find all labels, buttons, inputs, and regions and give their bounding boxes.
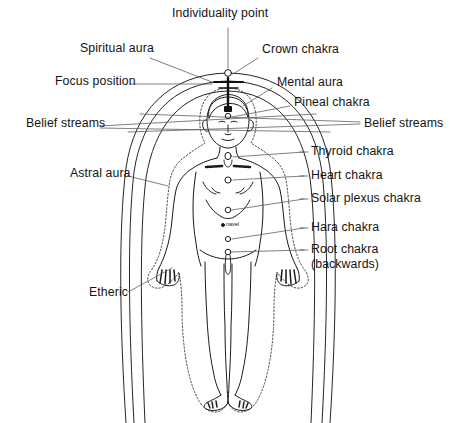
leader-root-chakra <box>232 250 304 252</box>
leader-astral-aura <box>128 176 168 186</box>
root-chakra-marker <box>225 249 231 255</box>
figure-drawing <box>0 0 457 423</box>
leader-mental-aura <box>243 88 272 106</box>
label-root-chakra: Root chakra <box>311 242 378 257</box>
pineal-chakra-marker <box>225 113 230 118</box>
label-individuality-point: Individuality point <box>172 6 268 21</box>
label-crown-chakra: Crown chakra <box>262 42 339 57</box>
root-chakra-shaft <box>225 255 231 274</box>
leader-belief-streams-left-b <box>100 128 330 132</box>
label-astral-aura: Astral aura <box>70 166 131 181</box>
label-thyroid-chakra: Thyroid chakra <box>311 144 394 159</box>
label-etheric: Etheric <box>89 285 128 300</box>
label-solar-plexus-chakra: Solar plexus chakra <box>311 191 421 206</box>
label-spiritual-aura: Spiritual aura <box>80 41 154 56</box>
leader-belief-streams-right-a <box>140 114 360 122</box>
leader-belief-streams-left-a <box>100 114 316 126</box>
leader-hara-chakra <box>232 228 304 239</box>
leader-pineal-chakra <box>232 106 290 117</box>
label-belief-streams-left: Belief streams <box>26 116 105 131</box>
focus-position-cap <box>224 106 232 112</box>
leader-thyroid-chakra <box>233 152 304 157</box>
thyroid-chakra-detail <box>224 160 232 167</box>
label-heart-chakra: Heart chakra <box>311 168 383 183</box>
heart-chakra-marker <box>225 177 231 183</box>
label-navel: navel <box>226 221 239 227</box>
solar-plexus-chakra-marker <box>225 207 231 213</box>
leader-ticks <box>300 152 308 250</box>
hara-chakra-marker <box>225 236 230 241</box>
navel-marker <box>222 224 225 227</box>
leader-spiritual-aura <box>150 58 212 82</box>
label-pineal-chakra: Pineal chakra <box>294 95 370 110</box>
label-belief-streams-right: Belief streams <box>364 116 443 131</box>
leader-crown-chakra <box>233 58 258 74</box>
label-mental-aura: Mental aura <box>277 75 343 90</box>
label-root-chakra-backwards: (backwards) <box>311 257 379 272</box>
crown-chakra-marker <box>225 70 232 77</box>
thyroid-chakra-marker <box>225 152 231 159</box>
aura-chakra-diagram: Individuality point Spiritual aura Crown… <box>0 0 457 423</box>
label-hara-chakra: Hara chakra <box>311 220 379 235</box>
label-focus-position: Focus position <box>55 74 136 89</box>
leader-heart-chakra <box>233 176 304 180</box>
leader-solar-plexus-chakra <box>232 199 304 210</box>
